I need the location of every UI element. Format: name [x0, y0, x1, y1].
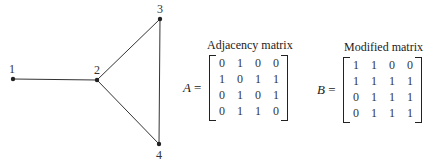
matrix-cell: 1	[249, 103, 267, 119]
equals-sign: =	[194, 80, 201, 95]
matrix-cell: 0	[347, 89, 365, 105]
matrix-cell: 1	[231, 55, 249, 71]
matrix-symbol-b: B	[317, 82, 325, 97]
adjacency-matrix-label: A =	[183, 81, 201, 95]
matrix-cell: 1	[383, 89, 401, 105]
adjacency-matrix-title: Adjacency matrix	[207, 38, 293, 52]
matrix-cell: 0	[249, 87, 267, 103]
modified-matrix-label: B =	[317, 83, 336, 97]
node-3	[158, 17, 162, 21]
modified-matrix: 1100111101110111	[347, 57, 419, 121]
matrix-cell: 1	[347, 73, 365, 89]
matrix-cell: 1	[365, 89, 383, 105]
matrix-cell: 1	[365, 57, 383, 73]
matrix-cell: 0	[347, 105, 365, 121]
node-label-3: 3	[157, 3, 163, 15]
matrix-cell: 0	[213, 87, 231, 103]
matrix-cell: 0	[231, 71, 249, 87]
matrix-cell: 1	[365, 73, 383, 89]
node-1	[11, 77, 15, 81]
node-label-4: 4	[156, 149, 162, 161]
matrix-cell: 1	[213, 71, 231, 87]
node-4	[157, 142, 161, 146]
matrix-symbol-a: A	[183, 80, 191, 95]
node-label-2: 2	[94, 64, 100, 76]
matrix-cell: 0	[383, 57, 401, 73]
edge-3-4	[159, 19, 160, 144]
equals-sign: =	[328, 82, 335, 97]
matrix-cell: 1	[383, 105, 401, 121]
node-2	[95, 78, 99, 82]
matrix-cell: 0	[213, 103, 231, 119]
adjacency-matrix: 0100101101010110	[213, 55, 285, 119]
matrix-cell: 1	[347, 57, 365, 73]
matrix-cell: 0	[213, 55, 231, 71]
matrix-cell: 1	[249, 71, 267, 87]
right-bracket	[415, 57, 422, 123]
matrix-cell: 1	[231, 87, 249, 103]
matrix-cell: 0	[249, 55, 267, 71]
edge-2-3	[97, 19, 160, 80]
edge-2-4	[97, 80, 159, 144]
edge-1-2	[13, 79, 97, 80]
matrix-cell: 1	[231, 103, 249, 119]
graph-diagram	[0, 0, 200, 165]
modified-matrix-title: Modified matrix	[344, 40, 423, 54]
node-label-1: 1	[9, 63, 15, 75]
matrix-cell: 1	[383, 73, 401, 89]
right-bracket	[281, 55, 288, 121]
matrix-cell: 1	[365, 105, 383, 121]
